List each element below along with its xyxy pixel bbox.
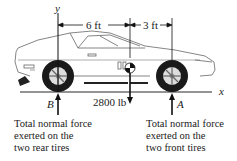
front-force-arrow-a	[169, 93, 175, 115]
center-of-gravity-icon	[125, 63, 135, 73]
dimension-6ft-label: 6 ft	[86, 19, 101, 31]
force-b-label: B	[47, 98, 54, 110]
weight-arrow	[127, 73, 133, 104]
front-wheel	[156, 60, 188, 92]
force-a-label: A	[177, 98, 184, 110]
rear-force-arrow-b	[55, 93, 61, 115]
car-free-body-diagram: y x 6 ft 3 ft 2800 lb B A Total normal f…	[0, 0, 237, 161]
weight-label: 2800 lb	[93, 96, 126, 108]
x-axis-label: x	[219, 85, 224, 97]
dimension-3ft-label: 3 ft	[143, 19, 158, 31]
y-axis-label: y	[55, 2, 60, 14]
car-side-skirt	[18, 76, 148, 86]
